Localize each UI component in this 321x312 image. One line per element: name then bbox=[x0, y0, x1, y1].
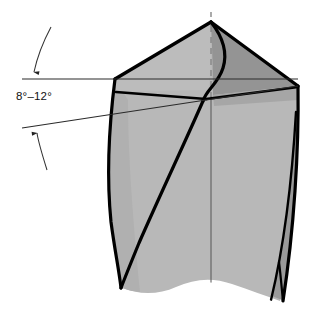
drill-point-figure: 8°–12° bbox=[0, 0, 321, 312]
flank-face-left bbox=[115, 22, 211, 92]
lip-relief-angle-label: 8°–12° bbox=[16, 90, 52, 102]
leader-arrow-lower bbox=[37, 133, 47, 170]
drill-point-illustration: 8°–12° bbox=[0, 0, 321, 312]
leader-arrow-upper bbox=[34, 27, 51, 72]
